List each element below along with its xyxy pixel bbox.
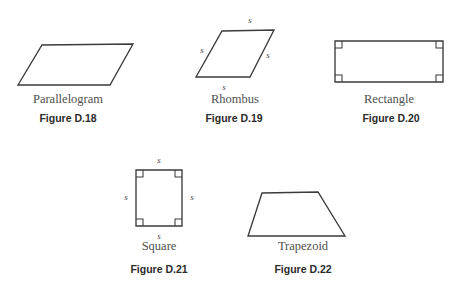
square-outline bbox=[136, 170, 182, 226]
shape-group-parallelogram bbox=[18, 44, 133, 85]
parallelogram-shape-name: Parallelogram bbox=[33, 93, 103, 106]
rectangle-outline bbox=[335, 41, 443, 82]
square-side-label: s bbox=[190, 193, 194, 202]
square-side-label: s bbox=[124, 193, 128, 202]
rectangle-figure-caption: Figure D.20 bbox=[362, 113, 419, 124]
rhombus-side-label: s bbox=[200, 46, 204, 55]
parallelogram-outline bbox=[18, 44, 133, 85]
square-side-label: s bbox=[157, 156, 161, 165]
rhombus-side-label: s bbox=[222, 83, 226, 92]
parallelogram-figure-caption: Figure D.18 bbox=[39, 113, 96, 124]
shape-group-rectangle bbox=[335, 41, 443, 82]
trapezoid-figure-caption: Figure D.22 bbox=[274, 264, 331, 275]
square-shape-name: Square bbox=[142, 240, 177, 253]
rhombus-outline bbox=[196, 30, 274, 77]
rhombus-side-label: s bbox=[266, 51, 270, 60]
shape-group-trapezoid bbox=[248, 192, 345, 236]
trapezoid-outline bbox=[248, 192, 345, 236]
rhombus-shape-name: Rhombus bbox=[211, 93, 259, 106]
rhombus-side-label: s bbox=[248, 16, 252, 25]
shapes-canvas bbox=[0, 0, 454, 288]
square-figure-caption: Figure D.21 bbox=[130, 264, 187, 275]
shape-group-square bbox=[136, 170, 182, 226]
rhombus-figure-caption: Figure D.19 bbox=[205, 113, 262, 124]
figure-sheet: ssssssss ParallelogramRhombusRectangleSq… bbox=[0, 0, 454, 288]
shape-group-rhombus bbox=[196, 30, 274, 77]
trapezoid-shape-name: Trapezoid bbox=[278, 240, 328, 253]
rectangle-shape-name: Rectangle bbox=[364, 93, 414, 106]
